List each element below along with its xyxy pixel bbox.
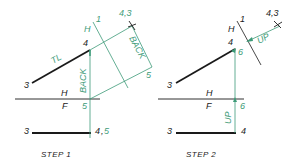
step1-label-43: 4,3 [119,8,132,18]
step2-panel: 3 4 6 H 1 4,3 UP H F 6 UP 3 4 STEP 2 [158,8,282,159]
step1-label-4-top: 4 [83,38,88,48]
step1-label-fold-h-lower: H [61,88,68,98]
step1-projector-4-to-43 [90,26,132,50]
step2-label-4-top: 4 [228,37,233,47]
step1-label-3-top: 3 [24,80,29,90]
step2-caption: STEP 2 [186,150,216,159]
step2-label-front6: 6 [240,101,245,111]
step1-label-3-front: 3 [24,126,29,136]
step1-edge-5-to-bottom [90,67,152,99]
step2-label-up-vertical: UP [223,111,233,124]
step2-label-43: 4,3 [266,8,279,18]
step2-label-3-front: 3 [167,126,172,136]
step1-label-fold-f: F [62,101,68,111]
step1-label-fold-1: 1 [96,14,101,24]
step2-label-fold-h-lower: H [206,88,213,98]
step1-caption: STEP 1 [41,150,71,159]
step1-label-5-front: 5 [104,126,110,136]
descriptive-geometry-diagram: 3 4 TL H 1 4,3 BACK BACK 5 H F 5 3 4 , 5… [0,0,289,160]
step1-label-fold-h: H [84,24,91,34]
step2-label-6-top: 6 [238,47,243,57]
step2-label-4-front: 4 [241,126,246,136]
step1-label-back-vertical: BACK [78,67,88,93]
step1-label-front5: 5 [82,101,88,111]
step1-fold-line-h1 [93,22,128,88]
step2-label-fold-h: H [228,24,235,34]
step1-label-tl: TL [49,52,63,66]
step1-panel: 3 4 TL H 1 4,3 BACK BACK 5 H F 5 3 4 , 5… [15,8,152,159]
step2-label-fold-f: F [206,101,212,111]
step1-label-back-aux: BACK [127,34,148,61]
step2-label-3-top: 3 [167,80,172,90]
step2-line-3-4-top [176,49,235,83]
step2-front6-arrowhead [233,97,237,102]
step2-label-up-aux: UP [255,31,271,46]
step1-label-corner5: 5 [146,70,152,80]
step2-label-fold-1: 1 [240,14,245,24]
step1-label-4-front: 4 [95,126,100,136]
